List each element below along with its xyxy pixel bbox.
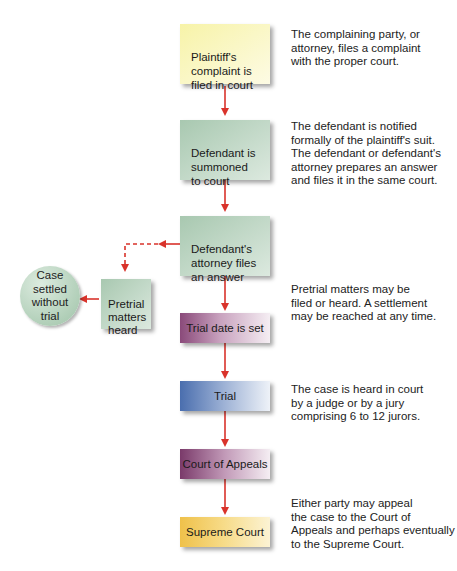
- case-settled-circle: Case settled without trial: [20, 266, 80, 326]
- step-description: The defendant is notified formally of th…: [291, 120, 441, 188]
- step-supreme-court: Supreme Court: [180, 517, 270, 547]
- step-court-of-appeals: Court of Appeals: [180, 449, 270, 479]
- step-label: Trial: [214, 389, 236, 403]
- step-defendant-summoned: Defendant is summoned to court: [180, 120, 270, 180]
- step-label: Plaintiff's complaint is filed in court: [191, 51, 253, 91]
- step-label: Supreme Court: [186, 525, 264, 539]
- step-complaint-filed: Plaintiff's complaint is filed in court: [180, 24, 270, 84]
- step-trial-date-set: Trial date is set: [180, 313, 270, 343]
- step-trial: Trial: [180, 381, 270, 411]
- settled-label: Case settled without trial: [32, 269, 68, 323]
- arrow-dashed-to-pretrial: [125, 244, 158, 268]
- step-description: The case is heard in court by a judge or…: [291, 383, 423, 424]
- step-description: Either party may appeal the case to the …: [291, 497, 455, 551]
- step-description: The complaining party, or attorney, file…: [291, 28, 421, 69]
- step-label: Trial date is set: [186, 321, 264, 335]
- pretrial-matters-heard: Pretrial matters heard: [101, 279, 151, 329]
- step-label: Court of Appeals: [182, 457, 267, 471]
- step-answer-filed: Defendant's attorney files an answer: [180, 216, 270, 276]
- step-description: Pretrial matters may be filed or heard. …: [291, 283, 436, 324]
